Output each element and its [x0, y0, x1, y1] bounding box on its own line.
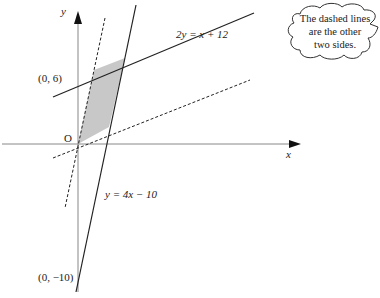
- point-label-0-neg10: (0, −10): [38, 271, 74, 284]
- line-2y-x-12: [53, 13, 254, 97]
- line-y-4x-10: [76, 5, 136, 292]
- y-axis-arrow-icon: [74, 11, 82, 24]
- x-axis-arrow-icon: [289, 140, 301, 148]
- line-label-y-4x-10: y = 4x − 10: [104, 188, 158, 200]
- dashed-side-shallow: [53, 80, 250, 158]
- y-axis-label: y: [60, 5, 66, 17]
- shaded-parallelogram: [78, 58, 125, 144]
- callout-line-3: two sides.: [292, 38, 378, 51]
- line-label-2y-x-12: 2y = x + 12: [176, 28, 229, 40]
- callout-line-1: The dashed lines: [292, 12, 378, 25]
- x-axis-label: x: [285, 148, 291, 160]
- callout-line-2: are the other: [292, 25, 378, 38]
- origin-label: O: [64, 132, 72, 144]
- cloud-callout-text: The dashed lines are the other two sides…: [292, 12, 378, 51]
- point-label-0-6: (0, 6): [38, 72, 62, 85]
